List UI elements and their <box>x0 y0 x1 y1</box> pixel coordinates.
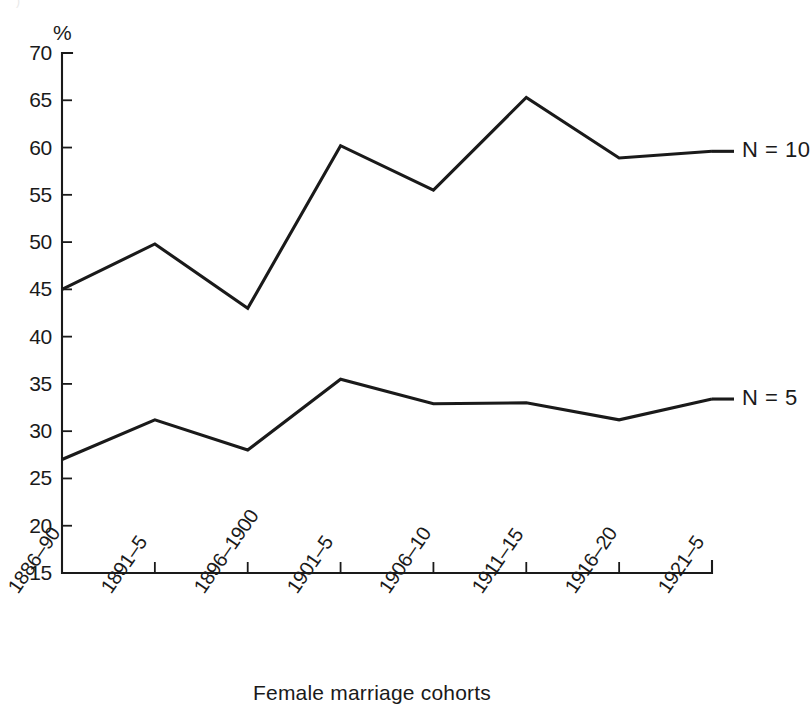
x-axis-title: Female marriage cohorts <box>253 682 491 703</box>
y-tick-label: 70 <box>0 42 52 63</box>
y-tick-label: 65 <box>0 89 52 110</box>
series-label-0: N = 10 <box>742 139 810 161</box>
y-tick-label: 40 <box>0 326 52 347</box>
y-tick-label: 30 <box>0 420 52 441</box>
series-label-leaders <box>712 151 734 399</box>
y-axis-unit-label: % <box>53 22 72 43</box>
axis-lines <box>62 53 712 573</box>
series-line-1 <box>62 379 712 459</box>
series-label-1: N = 5 <box>742 387 798 409</box>
y-tick-label: 25 <box>0 467 52 488</box>
y-tick-label: 55 <box>0 184 52 205</box>
y-tick-label: 45 <box>0 278 52 299</box>
series-line-0 <box>62 97 712 308</box>
y-tick-label: 50 <box>0 231 52 252</box>
axes <box>62 53 712 573</box>
series-lines <box>62 97 712 459</box>
y-tick-label: 35 <box>0 373 52 394</box>
y-tick-label: 60 <box>0 137 52 158</box>
